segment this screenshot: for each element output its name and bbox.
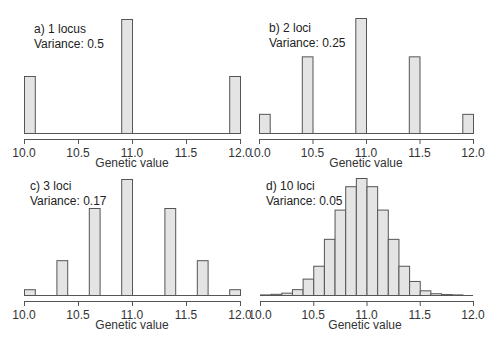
x-axis-label: Genetic value <box>315 318 415 332</box>
histogram-bar <box>442 295 453 296</box>
panel-a-title: a) 1 locus Variance: 0.5 <box>34 22 104 52</box>
x-axis-label: Genetic value <box>82 156 182 170</box>
histogram-bar <box>409 57 420 134</box>
histogram-bar <box>410 281 421 295</box>
histogram-bar <box>57 261 68 296</box>
histogram-bar <box>122 180 133 296</box>
histogram-bar <box>399 266 410 295</box>
histogram-bar <box>303 279 314 295</box>
panel-title: d) 10 loci <box>266 179 343 194</box>
x-tick-label: 12.0 <box>228 308 251 322</box>
histogram-bar <box>25 77 36 134</box>
histogram-bar <box>89 208 100 295</box>
x-tick-label: 12.0 <box>228 146 251 160</box>
histogram-bar <box>314 266 325 295</box>
x-tick-label: 10.0 <box>251 308 272 322</box>
panel-title: a) 1 locus <box>34 22 104 37</box>
x-tick-label: 12.0 <box>461 146 485 160</box>
histogram-bar <box>292 290 303 296</box>
x-tick-label: 12.0 <box>461 308 485 322</box>
histogram-bar <box>230 290 241 296</box>
panel-a: 10.010.511.011.512.0 a) 1 locus Variance… <box>0 0 251 172</box>
x-axis-label: Genetic value <box>82 318 182 332</box>
variance-label: Variance: 0.5 <box>34 37 104 52</box>
histogram-bar <box>378 210 389 295</box>
histogram-bar <box>282 293 293 295</box>
x-axis-label: Genetic value <box>316 156 416 170</box>
histogram-bar <box>122 20 133 134</box>
histogram-bar <box>420 291 431 296</box>
histogram-bar <box>367 187 378 296</box>
histogram-bar <box>463 114 474 133</box>
panel-d-title: d) 10 loci Variance: 0.05 <box>266 179 343 209</box>
histogram-bar <box>356 19 367 134</box>
histogram-bar <box>356 179 367 296</box>
histogram-bar <box>388 239 399 295</box>
x-tick-label: 10.0 <box>12 146 36 160</box>
histogram-bar <box>261 295 272 296</box>
histogram-bar <box>197 261 208 296</box>
variance-label: Variance: 0.05 <box>266 194 343 209</box>
variance-label: Variance: 0.25 <box>269 36 346 51</box>
histogram-bar <box>271 294 282 295</box>
panel-b-title: b) 2 loci Variance: 0.25 <box>269 21 346 51</box>
histogram-bar <box>431 294 442 296</box>
panel-title: b) 2 loci <box>269 21 346 36</box>
x-tick-label: 10.0 <box>12 308 36 322</box>
histogram-bar <box>302 57 313 134</box>
histogram-bar <box>230 77 241 134</box>
histogram-bar <box>165 208 176 295</box>
histogram-bar <box>335 210 346 295</box>
histogram-bar <box>346 187 357 296</box>
histogram-bar <box>324 239 335 295</box>
panel-c: 10.010.511.011.512.0 c) 3 loci Variance:… <box>0 172 251 344</box>
histogram-bar <box>260 114 271 133</box>
panel-title: c) 3 loci <box>30 179 107 194</box>
panel-b: 10.010.511.011.512.0 b) 2 loci Variance:… <box>251 0 502 172</box>
panel-c-title: c) 3 loci Variance: 0.17 <box>30 179 107 209</box>
variance-label: Variance: 0.17 <box>30 194 107 209</box>
panel-d: 10.010.511.011.512.0 d) 10 loci Variance… <box>251 172 502 344</box>
histogram-bar <box>452 295 463 296</box>
histogram-bar <box>25 290 36 296</box>
x-tick-label: 10.0 <box>251 146 271 160</box>
